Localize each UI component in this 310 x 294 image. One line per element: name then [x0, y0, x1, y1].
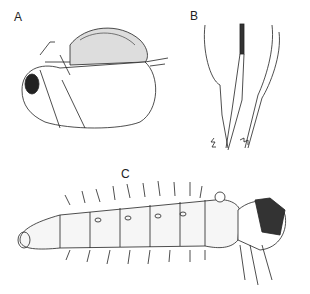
figure: A B C	[0, 0, 310, 294]
panel-a-drawing	[22, 28, 168, 128]
panel-c-drawing	[18, 181, 286, 285]
illustration	[0, 0, 310, 294]
panel-b-drawing	[204, 24, 279, 150]
